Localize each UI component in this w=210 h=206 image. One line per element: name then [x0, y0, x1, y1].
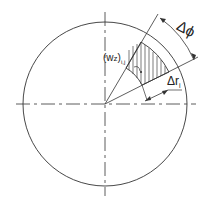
delta-r-arrow-right	[162, 90, 168, 95]
delta-r-sub: i	[179, 82, 181, 89]
cell-value-open: (w	[103, 52, 114, 63]
delta-r-extension-line	[142, 85, 147, 100]
delta-r-text: Δr	[167, 74, 179, 88]
hatch-lines	[129, 42, 165, 84]
polar-diagram: (wz)i,j Δϕ Δri	[0, 0, 210, 206]
delta-r-label: Δri	[167, 74, 181, 89]
hatched-cell	[126, 42, 169, 85]
cell-index: i,j	[121, 59, 125, 65]
cell-center-dot	[140, 71, 142, 73]
cell-value-label: (wz)i,j	[103, 52, 125, 65]
